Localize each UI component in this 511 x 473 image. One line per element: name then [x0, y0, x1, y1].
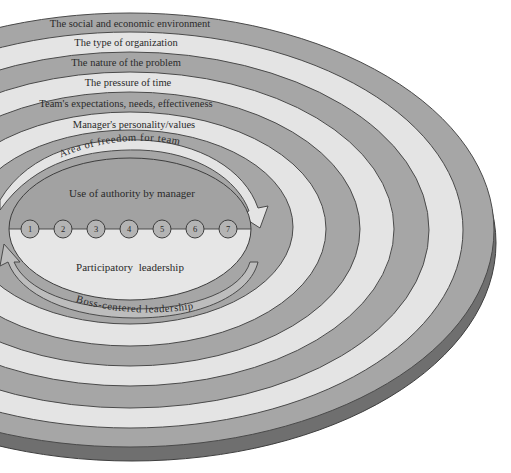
ring-label-manager-personality: Manager's personality/values [73, 119, 195, 130]
svg-text:7: 7 [226, 224, 230, 234]
center-label-participatory-leadership: Participatory leadership [76, 261, 184, 273]
svg-text:6: 6 [193, 224, 197, 234]
svg-text:5: 5 [160, 224, 164, 234]
scale-point-2: 2 [54, 220, 72, 238]
scale-point-6: 6 [186, 220, 204, 238]
scale-point-4: 4 [120, 220, 138, 238]
ring-label-nature-of-problem: The nature of the problem [71, 57, 181, 68]
ring-label-pressure-of-time: The pressure of time [85, 77, 172, 88]
ring-label-type-of-organization: The type of organization [74, 37, 178, 48]
leadership-continuum-diagram: The social and economic environment The … [0, 0, 511, 473]
ring-label-team-expectations: Team's expectations, needs, effectivenes… [39, 98, 212, 109]
svg-text:3: 3 [94, 224, 98, 234]
ring-label-social-economic: The social and economic environment [50, 18, 210, 29]
svg-text:1: 1 [28, 224, 32, 234]
scale-point-1: 1 [21, 220, 39, 238]
scale-point-7: 7 [219, 220, 237, 238]
scale-point-5: 5 [153, 220, 171, 238]
scale-point-3: 3 [87, 220, 105, 238]
center-label-use-of-authority: Use of authority by manager [69, 187, 195, 199]
svg-text:2: 2 [61, 224, 65, 234]
